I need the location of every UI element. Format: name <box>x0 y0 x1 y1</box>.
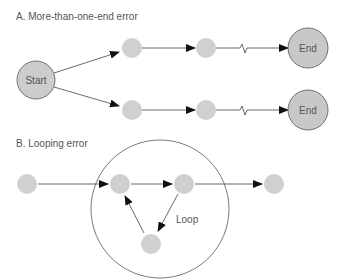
node-a-bottom-2 <box>196 100 216 120</box>
edge-bottom-break-to-end <box>216 106 288 115</box>
node-b-loop-1 <box>110 174 130 194</box>
diagram-canvas: A. More-than-one-end error Start End End… <box>0 0 343 280</box>
edge-b-3-1 <box>125 196 144 233</box>
node-a-bottom-1 <box>122 100 142 120</box>
end-label-top: End <box>299 43 317 54</box>
loop-label: Loop <box>176 214 199 225</box>
edge-b-2-3 <box>158 194 178 231</box>
node-b-entry <box>17 174 37 194</box>
edge-top-break-to-end <box>216 44 288 53</box>
section-b-title: B. Looping error <box>16 138 88 149</box>
node-b-exit <box>264 174 284 194</box>
end-label-bottom: End <box>299 105 317 116</box>
start-label: Start <box>25 75 46 86</box>
edge-start-to-bottom <box>54 87 119 106</box>
edge-start-to-top <box>54 52 119 73</box>
loop-boundary-circle <box>91 140 229 278</box>
section-a-title: A. More-than-one-end error <box>16 11 138 22</box>
node-a-top-1 <box>122 38 142 58</box>
node-b-loop-3 <box>141 234 161 254</box>
node-a-top-2 <box>196 38 216 58</box>
node-b-loop-2 <box>174 174 194 194</box>
